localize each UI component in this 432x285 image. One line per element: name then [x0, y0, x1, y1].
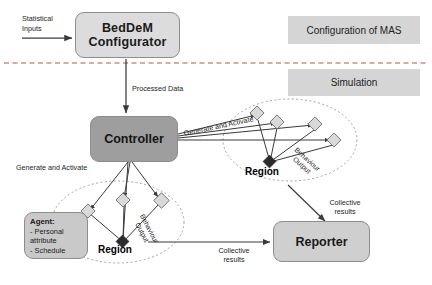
- edge-hub-left-1: [89, 213, 123, 242]
- region-right-label: Region: [245, 166, 279, 177]
- agent-node-right-2: [270, 115, 284, 129]
- collective-results-right-line2: results: [323, 207, 367, 216]
- configurator-label-line1: BedDeM: [102, 21, 153, 35]
- agent-node-right-4: [327, 133, 341, 147]
- phase-label-configuration: Configuration of MAS: [288, 16, 420, 44]
- agent-item-schedule: - Schedule: [30, 246, 65, 256]
- edge-collective-right: [288, 185, 325, 221]
- agent-item-attribute: attribute: [30, 236, 57, 246]
- agent-title: Agent:: [30, 217, 55, 227]
- agent-legend-node[interactable]: Agent: - Personal attribute - Schedule: [24, 212, 88, 259]
- controller-label: Controller: [104, 132, 164, 146]
- phase-configuration-text: Configuration of MAS: [306, 25, 401, 36]
- collective-results-left-line2: results: [212, 255, 256, 264]
- agent-node-left-2: [116, 193, 130, 207]
- edge-hub-right-1: [258, 120, 270, 162]
- beddem-configurator-node[interactable]: BedDeM Configurator: [75, 12, 180, 58]
- label-collective-results-right: Collective results: [323, 198, 367, 216]
- collective-results-left-line1: Collective: [212, 246, 256, 255]
- label-generate-and-activate-left: Generate and Activate: [16, 163, 87, 172]
- phase-simulation-text: Simulation: [331, 77, 378, 88]
- reporter-label: Reporter: [295, 235, 347, 249]
- label-statistical-inputs-line2: Inputs: [22, 24, 42, 33]
- configurator-label-line2: Configurator: [88, 35, 166, 49]
- label-collective-results-left: Collective results: [212, 246, 256, 264]
- collective-results-right-line1: Collective: [323, 198, 367, 207]
- diagram-canvas: BedDeM Configurator Controller Reporter …: [0, 0, 432, 285]
- region-left-label: Region: [98, 244, 132, 255]
- phase-label-simulation: Simulation: [288, 69, 420, 96]
- edge-generate-left-3: [132, 162, 158, 197]
- label-statistical-inputs-line1: Statistical: [22, 14, 53, 23]
- agent-node-right-3: [308, 117, 322, 131]
- controller-node[interactable]: Controller: [90, 116, 178, 162]
- reporter-node[interactable]: Reporter: [273, 221, 370, 262]
- agent-item-personal: - Personal: [30, 227, 64, 237]
- label-processed-data: Processed Data: [132, 84, 183, 93]
